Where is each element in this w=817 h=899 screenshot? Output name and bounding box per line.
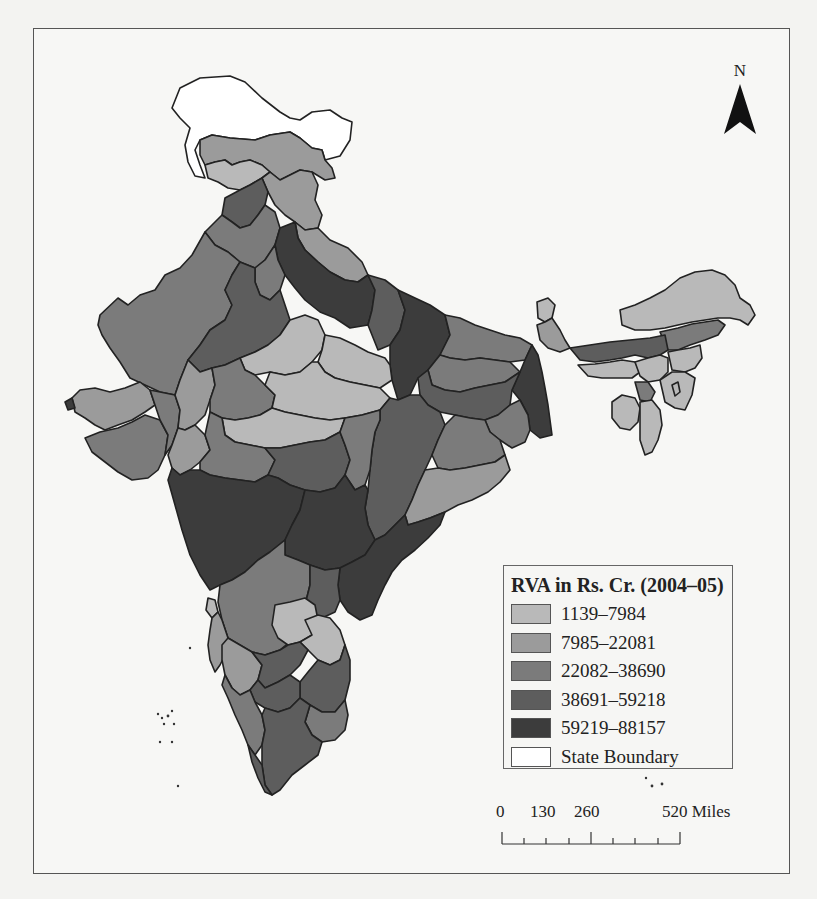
scale-ticks bbox=[496, 802, 756, 852]
region-bihar-north[interactable] bbox=[440, 315, 532, 362]
legend-swatch bbox=[511, 661, 551, 681]
legend-swatch bbox=[511, 718, 551, 738]
legend-item-class-2: 7985–22081 bbox=[511, 629, 732, 658]
region-arunachal-pradesh[interactable] bbox=[620, 270, 755, 330]
legend-label: 22082–38690 bbox=[561, 661, 666, 681]
region-mizoram[interactable] bbox=[640, 400, 662, 455]
legend-swatch bbox=[511, 633, 551, 653]
legend-label: 1139–7984 bbox=[561, 604, 646, 624]
region-meghalaya[interactable] bbox=[578, 360, 640, 378]
legend-item-state-boundary: State Boundary bbox=[511, 743, 732, 772]
legend-swatch bbox=[511, 690, 551, 710]
legend-title: RVA in Rs. Cr. (2004–05) bbox=[511, 572, 732, 598]
legend: RVA in Rs. Cr. (2004–05) 1139–7984 7985–… bbox=[503, 565, 733, 769]
legend-label: State Boundary bbox=[561, 747, 679, 767]
north-label: N bbox=[720, 62, 760, 80]
legend-item-class-4: 38691–59218 bbox=[511, 686, 732, 715]
legend-swatch bbox=[511, 747, 551, 767]
legend-item-class-3: 22082–38690 bbox=[511, 657, 732, 686]
north-arrow-icon bbox=[720, 80, 760, 136]
legend-item-class-5: 59219–88157 bbox=[511, 714, 732, 743]
scale-bar: 0 130 260 520 Miles bbox=[496, 802, 756, 852]
region-tripura-area[interactable] bbox=[635, 382, 655, 402]
region-north-bengal[interactable] bbox=[537, 318, 570, 352]
legend-label: 7985–22081 bbox=[561, 633, 656, 653]
region-andhra-south-light[interactable] bbox=[300, 615, 345, 665]
andaman-islands bbox=[645, 777, 664, 788]
legend-label: 38691–59218 bbox=[561, 690, 666, 710]
north-arrow: N bbox=[720, 62, 760, 140]
legend-swatch bbox=[511, 604, 551, 624]
legend-item-class-1: 1139–7984 bbox=[511, 600, 732, 629]
region-tripura[interactable] bbox=[612, 395, 640, 430]
lakshadweep-islands bbox=[157, 647, 191, 787]
legend-label: 59219–88157 bbox=[561, 718, 666, 738]
